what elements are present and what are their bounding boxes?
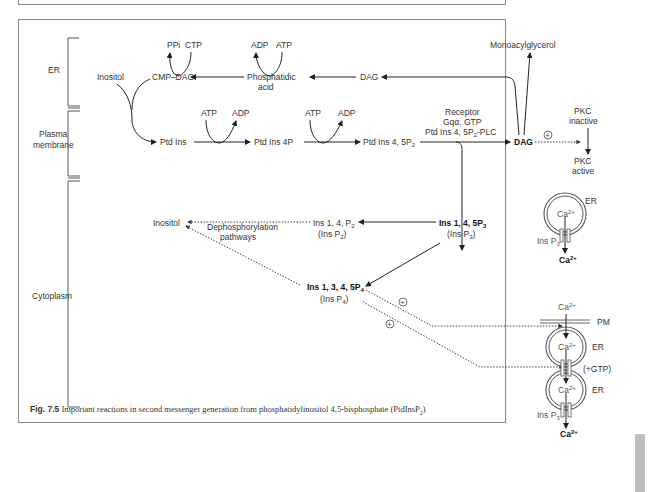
svg-text:+: + [388, 321, 392, 328]
region-label-er: ER [48, 65, 60, 75]
label-atp-er: ATP [276, 40, 292, 50]
label-insp3-short: (Ins P3) [447, 229, 476, 240]
label-cmp-dag: CMP–DAG [152, 72, 194, 82]
figure-caption: Fig. 7.5 Important reactions in second m… [30, 404, 426, 416]
figure-number: Fig. 7.5 [30, 404, 59, 414]
label-inositol-cyto: Inositol [153, 218, 180, 228]
label-adp-pm2: ADP [338, 108, 356, 118]
label-pkc-active: PKC [574, 156, 591, 166]
label-insp3-top: Ins P3 [537, 236, 560, 247]
label-ca-er1: Ca2+ [558, 342, 576, 352]
label-er-top: ER [585, 196, 597, 206]
region-brackets [68, 38, 80, 407]
svg-text:+: + [546, 132, 550, 139]
label-gq-gtp: Gqα. GTP [443, 117, 482, 127]
label-dag-pm: DAG [514, 137, 533, 147]
label-ca-out-bottom: Ca2+ [560, 429, 578, 439]
label-pkc-inactive-2: inactive [569, 116, 598, 126]
activation-plus-icon: + [544, 131, 552, 139]
label-insp4-short: (Ins P4) [320, 294, 349, 305]
label-pkc-active-2: active [572, 166, 594, 176]
label-ppi: PPi [167, 40, 180, 50]
label-insp3: Ins 1, 4, 5P3 [439, 218, 487, 229]
region-label-membrane: membrane [33, 140, 74, 150]
label-pm: PM [597, 317, 610, 327]
label-dag-er: DAG [360, 72, 378, 82]
region-label-plasma: Plasma [39, 129, 68, 139]
label-phosphatidic-acid: Phosphatidic [247, 72, 296, 82]
label-ptd-ins-45p2: Ptd Ins 4, 5P2 [363, 137, 416, 148]
label-plc: Ptd Ins 4, 5P2-PLC [425, 127, 496, 138]
label-pkc-inactive: PKC [574, 106, 591, 116]
label-ctp: CTP [185, 40, 202, 50]
caption-text: Important reactions in second messenger … [59, 404, 419, 414]
label-atp-pm1: ATP [201, 108, 217, 118]
label-inositol-er: Inositol [97, 72, 124, 82]
region-label-cytoplasm: Cytoplasm [32, 291, 72, 301]
svg-text:+: + [401, 299, 405, 306]
label-adp-pm1: ADP [232, 108, 250, 118]
label-ca-er2: Ca2+ [558, 385, 576, 395]
caption-end: ) [423, 404, 426, 414]
label-adp-er: ADP [251, 40, 269, 50]
label-gtp: (+GTP) [583, 364, 611, 374]
label-phosphatidic-acid-2: acid [258, 82, 274, 92]
label-monoacylglycerol: Monoacylglycerol [490, 40, 556, 50]
label-ca-in: Ca2+ [558, 302, 576, 312]
label-insp2: Ins 1, 4, P2 [313, 218, 355, 229]
label-pathways: pathways [220, 232, 256, 242]
label-er1: ER [592, 342, 604, 352]
activation-plus-icon-lower: + [386, 320, 394, 328]
label-atp-pm2: ATP [305, 108, 321, 118]
label-ptd-ins: Ptd Ins [160, 137, 186, 147]
label-insp4: Ins 1, 3, 4, 5P4 [307, 282, 364, 293]
label-ca-out-top: Ca2+ [559, 255, 577, 265]
label-ptd-ins-4p: Ptd Ins 4P [254, 137, 294, 147]
label-insp2-short: (Ins P2) [318, 229, 347, 240]
label-er2: ER [592, 385, 604, 395]
label-ca-top: Ca2+ [557, 209, 575, 219]
label-insp3-bottom: Ins P3 [537, 410, 560, 421]
activation-plus-icon-upper: + [399, 298, 407, 306]
pathway-diagram: ER Plasma membrane Cytoplasm PPi CTP ADP… [0, 0, 649, 492]
label-dephosphorylation: Dephosphorylation [207, 222, 278, 232]
label-receptor: Receptor [445, 107, 480, 117]
